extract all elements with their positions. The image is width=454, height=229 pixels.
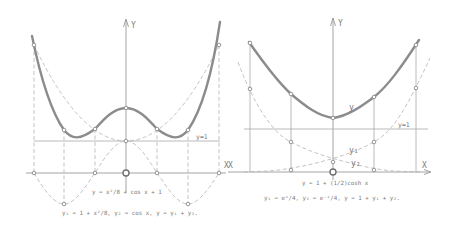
right-x-label: X bbox=[422, 161, 427, 170]
right-origin-marker bbox=[330, 169, 336, 175]
right-formula-parts: y₁ = eˣ/4, y₂ = e⁻ˣ/4, y = 1 + y₁ + y₂. bbox=[264, 195, 400, 202]
left-origin-marker bbox=[123, 170, 129, 176]
figure-canvas: Y X y=1 bbox=[0, 0, 454, 229]
right-formula-main: y = 1 + (1/2)cosh x bbox=[302, 180, 369, 187]
right-curve-label-y1: y₁ bbox=[349, 146, 359, 155]
left-y1-line-label: y=1 bbox=[196, 133, 208, 141]
right-result-curve bbox=[249, 40, 419, 118]
right-curve-label-y: y bbox=[349, 103, 354, 112]
left-formula-parts: y₁ = 1 + x²/8, y₂ = cos x, y = y₁ + y₂. bbox=[62, 210, 198, 217]
right-x-label-left: X bbox=[228, 161, 233, 170]
left-diagram: Y X y=1 bbox=[26, 19, 229, 217]
right-diagram: Y X X y=1 y y₁ y₂ bbox=[228, 18, 431, 202]
left-formula-main: y = x²/8 + cos x + 1 bbox=[92, 189, 162, 196]
right-y1-line-label: y=1 bbox=[398, 121, 410, 129]
left-y-label: Y bbox=[131, 21, 136, 30]
right-curve-label-y2: y₂ bbox=[351, 159, 361, 168]
right-y-label: Y bbox=[338, 19, 343, 28]
right-exp-growth-y1 bbox=[244, 58, 430, 172]
